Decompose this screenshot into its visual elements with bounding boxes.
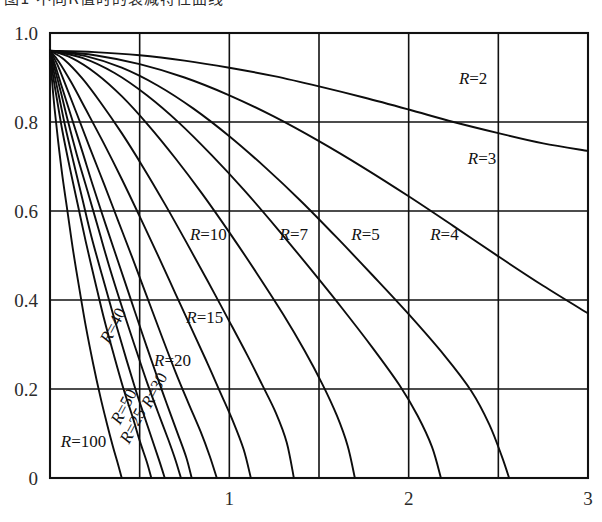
y-tick-label-0.8: 0.8 — [14, 112, 38, 133]
curve-label-r-10: R=10 — [189, 225, 227, 244]
x-tick-label-2: 2 — [404, 488, 414, 509]
figure-container: 图1 不同R值时的衰减特性曲线 R=2R=3R=4R=5R=7R=10R=15R… — [0, 0, 602, 522]
curve-label-r-30: R=30 — [137, 369, 172, 411]
y-tick-label-0.6: 0.6 — [14, 201, 38, 222]
y-tick-label-0.2: 0.2 — [14, 379, 38, 400]
curve-label-r-15: R=15 — [185, 308, 223, 327]
curve-label-r-40: R=40 — [95, 305, 130, 347]
curve-label-r-5: R=5 — [350, 225, 379, 244]
curve-r-15 — [50, 51, 251, 478]
curve-label-r-20: R=20 — [153, 351, 191, 370]
chart-plot: R=2R=3R=4R=5R=7R=10R=15R=20R=25R=30R=40R… — [0, 0, 602, 522]
x-tick-label-3: 3 — [583, 488, 593, 509]
curve-label-r-100: R=100 — [60, 432, 106, 451]
x-tick-label-1: 1 — [225, 488, 235, 509]
curve-label-r-4: R=4 — [429, 225, 459, 244]
y-axis-tick-labels: 00.20.40.60.81.0 — [14, 23, 38, 489]
curve-label-r-2: R=2 — [458, 69, 487, 88]
curve-r-10 — [50, 51, 294, 478]
curve-label-r-3: R=3 — [467, 149, 496, 168]
curve-label-r-7: R=7 — [279, 225, 309, 244]
y-tick-label-0: 0 — [29, 468, 39, 489]
y-tick-label-1.0: 1.0 — [14, 23, 38, 44]
x-axis-tick-labels: 123 — [225, 488, 593, 509]
curve-labels-group: R=2R=3R=4R=5R=7R=10R=15R=20R=25R=30R=40R… — [60, 69, 497, 451]
y-tick-label-0.4: 0.4 — [14, 290, 38, 311]
